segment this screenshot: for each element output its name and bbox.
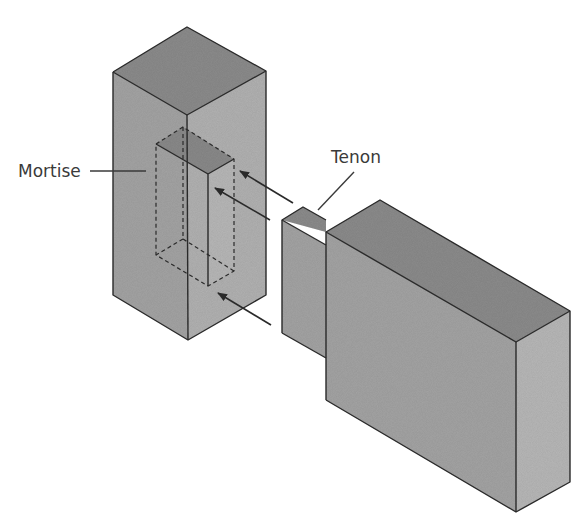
mortise-tenon-diagram: Mortise Tenon [0,0,588,531]
tenon-label: Tenon [330,147,381,167]
tenon-leader-line [318,172,354,210]
rail-end-face [516,311,570,512]
mortise-hole-inner [208,159,234,286]
mortise-block [113,27,266,340]
tenon-piece [282,200,570,512]
tenon-callout: Tenon [318,147,381,210]
mortise-left-face [113,72,188,340]
mortise-label: Mortise [18,161,81,181]
